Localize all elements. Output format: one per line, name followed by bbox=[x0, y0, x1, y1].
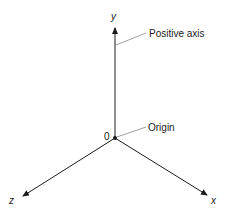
x-axis bbox=[115, 138, 207, 195]
z-axis bbox=[23, 138, 115, 196]
y-axis-label: y bbox=[110, 11, 117, 22]
origin-zero-label: 0 bbox=[104, 131, 110, 142]
origin-annotation: Origin bbox=[148, 122, 175, 133]
coordinate-diagram: y x z 0 Positive axis Origin bbox=[0, 0, 225, 214]
origin-leader bbox=[117, 127, 146, 137]
origin-point bbox=[113, 136, 117, 140]
positive-axis-leader bbox=[116, 33, 146, 45]
positive-axis-annotation: Positive axis bbox=[149, 28, 205, 39]
x-axis-label: x bbox=[210, 195, 217, 206]
z-axis-label: z bbox=[8, 195, 14, 206]
